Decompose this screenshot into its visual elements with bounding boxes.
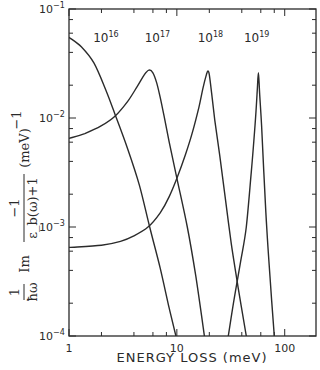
curve-18	[69, 71, 246, 336]
ylabel-unit: (meV)	[17, 128, 32, 168]
plot-area	[69, 9, 316, 336]
ylabel-unit-exponent: −1	[9, 110, 24, 129]
y-tick-label: 10−3	[39, 219, 65, 234]
curves	[69, 37, 274, 336]
curve-label-17: 1017	[145, 30, 170, 45]
x-tick-label: 1	[66, 342, 73, 355]
y-tick-label: 10−2	[39, 110, 65, 125]
x-tick-label: 100	[274, 342, 295, 355]
y-tick-label: 10−1	[39, 1, 65, 16]
curve-17	[69, 70, 204, 336]
ylabel-im: Im	[17, 255, 32, 272]
plot-frame	[69, 9, 316, 336]
axis-ticks	[69, 9, 316, 336]
curve-19	[228, 73, 274, 336]
loss-function-chart: 1016101710181019 11010010−110−210−310−4 …	[0, 0, 320, 370]
ylabel-fraction-numerator: −1	[7, 198, 22, 217]
ylabel-prefix-numerator: 1	[7, 288, 22, 296]
curve-label-16: 1016	[93, 30, 118, 45]
ylabel-prefix-denominator: ħω	[25, 283, 40, 302]
curve-label-18: 1018	[198, 30, 223, 45]
ylabel-fraction-denominator: ε_b(ω)+1	[25, 177, 40, 238]
curve-labels: 1016101710181019	[93, 30, 269, 45]
curve-label-19: 1019	[244, 30, 269, 45]
x-axis-label: ENERGY LOSS (meV)	[116, 350, 267, 365]
curve-16	[69, 37, 176, 336]
y-axis-label: 1ħωIm−1ε_b(ω)+1(meV)−1	[7, 110, 40, 301]
y-tick-label: 10−4	[39, 328, 65, 343]
